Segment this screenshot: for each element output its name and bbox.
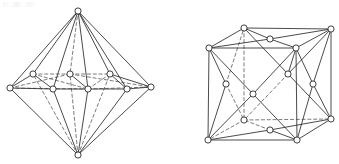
bottom-front-left-corner-node xyxy=(205,137,211,143)
hexagonal-bipyramid-figure xyxy=(7,8,154,158)
back-center-node xyxy=(67,71,73,77)
back-face-center-node xyxy=(285,71,291,77)
back-left-node xyxy=(30,71,36,77)
lattice-edge-hidden xyxy=(33,74,78,155)
lattice-edge xyxy=(296,48,297,140)
bottom-back-left-corner-node xyxy=(241,117,247,123)
lattice-edge-hidden xyxy=(78,74,110,155)
lattice-edge xyxy=(244,28,270,39)
lattice-edge xyxy=(296,48,313,84)
bottom-face-center-node xyxy=(267,127,273,133)
bottom-back-right-corner-node xyxy=(328,116,334,122)
lattice-edge xyxy=(10,88,78,155)
lattice-edge xyxy=(53,89,78,155)
lattice-edge xyxy=(78,87,151,155)
front-center-node xyxy=(85,86,91,92)
lattice-edge-hidden xyxy=(226,84,244,120)
lattice-edge xyxy=(244,28,331,29)
lattice-edge-hidden xyxy=(244,119,331,120)
lattice-edge xyxy=(33,74,53,89)
equator-left-node xyxy=(7,85,13,91)
lattice-figure-panel xyxy=(0,0,339,164)
lattice-edge-hidden xyxy=(88,74,110,89)
top-back-right-corner-node xyxy=(328,26,334,32)
lattice-edge-hidden xyxy=(244,120,270,130)
lattice-edge xyxy=(253,94,297,140)
lattice-edge xyxy=(78,11,110,74)
face-centered-cubic-figure xyxy=(205,25,334,143)
lattice-diagram-canvas xyxy=(0,0,339,164)
lattice-edge xyxy=(78,11,88,89)
lattice-edge xyxy=(208,48,209,140)
front-left-node xyxy=(50,86,56,92)
lattice-edge xyxy=(208,94,253,140)
lattice-edge xyxy=(270,39,296,48)
front-face-center-node xyxy=(250,91,256,97)
lattice-edge xyxy=(313,84,331,119)
lattice-edge xyxy=(10,74,33,88)
lattice-edge xyxy=(209,39,270,48)
bottom-apex-node xyxy=(75,152,81,158)
top-face-center-node xyxy=(267,36,273,42)
right-face-center-node xyxy=(310,81,316,87)
lattice-edge xyxy=(78,89,88,155)
lattice-edge xyxy=(209,48,253,94)
equator-right-node xyxy=(148,84,154,90)
front-right-node xyxy=(124,86,130,92)
lattice-edge xyxy=(244,28,288,74)
lattice-edge xyxy=(78,89,127,155)
top-front-right-corner-node xyxy=(293,45,299,51)
top-apex-node xyxy=(75,8,81,14)
lattice-edge xyxy=(288,29,331,74)
lattice-edge xyxy=(209,48,226,84)
bottom-front-right-corner-node xyxy=(294,137,300,143)
back-right-node xyxy=(107,71,113,77)
top-front-left-corner-node xyxy=(206,45,212,51)
top-back-left-corner-node xyxy=(241,25,247,31)
lattice-edge xyxy=(288,74,331,119)
left-face-center-node xyxy=(223,81,229,87)
lattice-edge xyxy=(270,130,297,140)
